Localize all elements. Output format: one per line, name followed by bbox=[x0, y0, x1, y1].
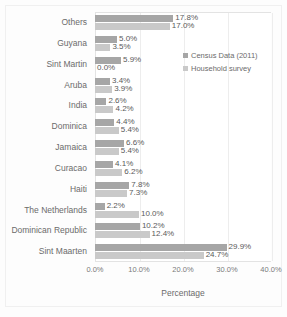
bar-group: 7.8%7.3% bbox=[95, 179, 271, 200]
x-tick-label: 0.0% bbox=[86, 265, 103, 274]
category-label: The Netherlands bbox=[0, 200, 91, 221]
x-tick-label: 10.0% bbox=[128, 265, 149, 274]
bar-group: 29.9%24.7% bbox=[95, 241, 271, 262]
chart-legend: Census Data (2011)Household survey bbox=[183, 51, 279, 77]
bar-value-label: 5.4% bbox=[121, 126, 139, 134]
bar-value-label: 6.2% bbox=[124, 168, 142, 176]
legend-entry[interactable]: Household survey bbox=[183, 64, 279, 73]
x-axis-title: Percentage bbox=[95, 288, 271, 298]
bar-census bbox=[95, 203, 105, 210]
bar-census bbox=[95, 161, 113, 168]
category-label: Sint Maarten bbox=[0, 241, 91, 262]
bar-value-label: 7.3% bbox=[129, 189, 147, 197]
bar-group: 3.4%3.9% bbox=[95, 75, 271, 96]
category-label: India bbox=[0, 95, 91, 116]
bar-group: 17.8%17.0% bbox=[95, 12, 271, 33]
bar-census bbox=[95, 78, 110, 85]
bar-household bbox=[95, 127, 119, 134]
bar-value-label: 29.9% bbox=[229, 243, 252, 251]
bar-group: 4.1%6.2% bbox=[95, 158, 271, 179]
x-tick-label: 20.0% bbox=[172, 265, 193, 274]
bar-census bbox=[95, 223, 140, 230]
legend-swatch-icon bbox=[183, 53, 188, 58]
bar-group: 2.6%4.2% bbox=[95, 95, 271, 116]
bar-census bbox=[95, 119, 114, 126]
category-axis: OthersGuyanaSint MartinArubaIndiaDominic… bbox=[0, 12, 91, 262]
bar-value-label: 2.2% bbox=[107, 202, 125, 210]
x-tick-label: 30.0% bbox=[216, 265, 237, 274]
bar-value-label: 0.0% bbox=[97, 64, 115, 72]
category-label: Aruba bbox=[0, 75, 91, 96]
category-label: Haiti bbox=[0, 179, 91, 200]
chart-figure: 17.8%17.0%5.0%3.5%5.9%0.0%3.4%3.9%2.6%4.… bbox=[0, 0, 287, 317]
category-label: Jamaica bbox=[0, 137, 91, 158]
legend-label: Census Data (2011) bbox=[191, 51, 258, 60]
category-label: Others bbox=[0, 12, 91, 33]
bar-household bbox=[95, 23, 170, 30]
bar-census bbox=[95, 140, 124, 147]
bar-household bbox=[95, 252, 204, 259]
bar-household bbox=[95, 44, 110, 51]
bar-census bbox=[95, 15, 173, 22]
category-label: Dominica bbox=[0, 116, 91, 137]
bar-household bbox=[95, 211, 139, 218]
bar-group: 6.6%5.4% bbox=[95, 137, 271, 158]
bar-value-label: 5.9% bbox=[123, 56, 141, 64]
bar-value-label: 24.7% bbox=[206, 251, 229, 259]
legend-entry[interactable]: Census Data (2011) bbox=[183, 51, 279, 60]
bar-household bbox=[95, 106, 113, 113]
x-tick-label: 40.0% bbox=[260, 265, 281, 274]
bar-household bbox=[95, 169, 122, 176]
category-label: Guyana bbox=[0, 33, 91, 54]
bar-value-label: 10.0% bbox=[141, 210, 164, 218]
bar-value-label: 3.9% bbox=[114, 85, 132, 93]
bar-value-label: 17.0% bbox=[172, 22, 195, 30]
bar-value-label: 12.4% bbox=[152, 230, 175, 238]
bar-household bbox=[95, 86, 112, 93]
legend-swatch-icon bbox=[183, 66, 188, 71]
bar-census bbox=[95, 98, 106, 105]
bar-household bbox=[95, 148, 119, 155]
bar-household bbox=[95, 231, 150, 238]
bar-group: 4.4%5.4% bbox=[95, 116, 271, 137]
bar-value-label: 3.5% bbox=[112, 43, 130, 51]
bar-group: 10.2%12.4% bbox=[95, 220, 271, 241]
legend-label: Household survey bbox=[191, 64, 251, 73]
bars-layer: 17.8%17.0%5.0%3.5%5.9%0.0%3.4%3.9%2.6%4.… bbox=[95, 12, 271, 262]
x-axis-ticks: 0.0%10.0%20.0%30.0%40.0% bbox=[95, 265, 271, 277]
category-label: Curacao bbox=[0, 158, 91, 179]
bar-value-label: 4.2% bbox=[115, 105, 133, 113]
bar-group: 2.2%10.0% bbox=[95, 200, 271, 221]
bar-household bbox=[95, 190, 127, 197]
bar-value-label: 5.4% bbox=[121, 147, 139, 155]
bar-census bbox=[95, 182, 129, 189]
category-label: Dominican Republic bbox=[0, 220, 91, 241]
category-label: Sint Martin bbox=[0, 54, 91, 75]
